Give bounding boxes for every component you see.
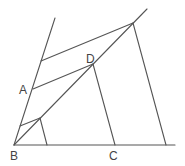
segment-DC-line: [93, 64, 115, 145]
segments: [14, 9, 175, 145]
label-C: C: [109, 149, 118, 163]
label-D: D: [86, 52, 95, 66]
geometry-diagram: A B C D: [0, 0, 185, 166]
small-vertical-line: [40, 118, 47, 145]
label-B: B: [10, 149, 18, 163]
segment-AD-line: [33, 64, 93, 89]
diagonal-ray-line: [14, 9, 147, 145]
top-vertical-line: [133, 23, 166, 145]
label-A: A: [19, 83, 27, 97]
